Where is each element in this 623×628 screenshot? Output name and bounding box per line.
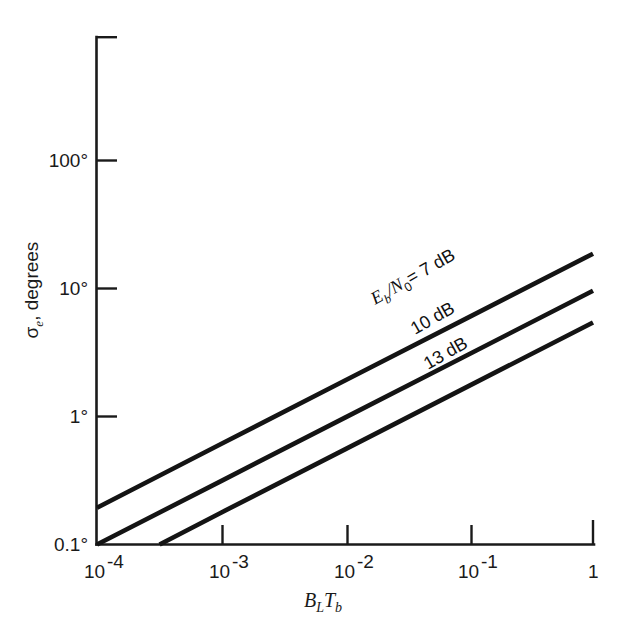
x-tick-label-1: 1 [588,561,599,582]
y-axis-title-rest: , degrees [21,242,42,321]
x-tick-exponent-1e-3: -3 [232,551,249,572]
svg-text:BLTb: BLTb [304,589,342,615]
y-axis-title: σe, degrees [21,242,46,339]
x-tick-label-1e-4: 10 -4 [84,551,124,582]
x-tick-label-1e-1: 10 -1 [458,551,498,582]
curve-label-10db-text: 10 dB [407,298,458,339]
svg-text:σe, degrees: σe, degrees [21,242,46,339]
y-tick-label-1: 1° [70,406,88,427]
x-tick-mantissa-1e-2: 10 [334,561,355,582]
x-tick-mantissa-1e-1: 10 [458,561,479,582]
x-tick-mantissa-1e-3: 10 [209,561,230,582]
chart-figure: 100° 10° 1° 0.1° 10 -4 10 -3 10 -2 10 -1… [0,0,623,628]
y-axis-title-sigma: σ [21,326,42,338]
x-tick-exponent-1e-1: -1 [481,551,498,572]
x-axis-title: BLTb [304,589,342,615]
curve-label-7db-value: = 7 dB [403,245,459,288]
x-tick-label-1e-3: 10 -3 [209,551,249,582]
y-tick-label-100: 100° [49,150,88,171]
y-tick-label-10: 10° [59,278,88,299]
chart-plot-area: 100° 10° 1° 0.1° 10 -4 10 -3 10 -2 10 -1… [0,0,623,628]
x-tick-label-1e-2: 10 -2 [334,551,374,582]
x-axis-title-B: B [304,589,316,611]
x-axis-title-L: L [315,600,324,615]
y-tick-label-0.1: 0.1° [54,534,88,555]
curve-7db [97,254,593,508]
curve-10db [97,291,593,545]
x-tick-exponent-1e-2: -2 [357,551,374,572]
x-tick-exponent-1e-4: -4 [107,551,124,572]
x-tick-mantissa-1e-4: 10 [84,561,105,582]
x-axis-title-b: b [335,600,342,615]
curve-13db [160,323,593,545]
curve-label-10db: 10 dB [407,298,458,339]
